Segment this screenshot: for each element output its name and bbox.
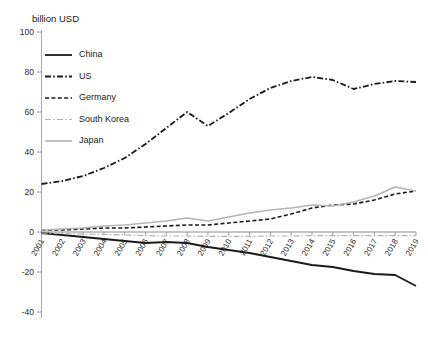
legend-label-us: US bbox=[79, 71, 92, 81]
y-tick-label: -20 bbox=[22, 267, 35, 277]
line-chart: billion USD 100806040200-20-40 200120022… bbox=[0, 0, 428, 345]
y-tick-label: 0 bbox=[29, 227, 34, 237]
legend-label-south-korea: South Korea bbox=[79, 114, 129, 124]
legend-label-china: China bbox=[79, 49, 103, 59]
y-tick-label: 80 bbox=[25, 67, 35, 77]
y-tick-label: 20 bbox=[25, 187, 35, 197]
legend-label-germany: Germany bbox=[79, 92, 117, 102]
chart-background bbox=[0, 0, 428, 345]
y-axis-unit-label: billion USD bbox=[32, 13, 79, 24]
y-tick-label: 60 bbox=[25, 107, 35, 117]
legend-label-japan: Japan bbox=[79, 135, 104, 145]
y-tick-label: 100 bbox=[20, 27, 34, 37]
y-tick-label: -40 bbox=[22, 307, 35, 317]
y-tick-label: 40 bbox=[25, 147, 35, 157]
